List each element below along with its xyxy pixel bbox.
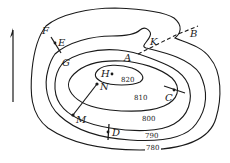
point-h-dot [111,73,114,76]
point-m-dot [71,113,74,116]
point-label-d: D [111,127,120,138]
point-label-c: C [165,92,173,103]
elevation-label-780: 780 [146,144,159,152]
point-label-a: A [123,52,131,63]
segment-a-b-dashed [138,26,198,54]
elevation-label-800: 800 [142,115,155,123]
point-d-dot [107,131,110,134]
point-c-dot [173,89,176,92]
point-label-k: K [149,36,158,47]
elevation-label-810: 810 [134,94,147,102]
segment-m-n [73,84,97,115]
elevation-label-820: 820 [121,76,134,84]
elevation-label-790: 790 [145,132,158,140]
contour-810 [68,61,177,111]
point-label-g: G [62,57,70,68]
topographic-map: 820 810 800 790 780 F E G H N M D C A K … [0,0,230,163]
point-label-f: F [41,25,50,36]
point-n-dot [95,82,98,85]
point-label-b: B [189,28,197,39]
point-label-e: E [57,37,66,48]
point-e-dot [54,42,57,45]
point-label-n: N [99,81,110,92]
point-label-m: M [75,114,87,125]
north-arrow-icon [10,28,13,102]
point-label-h: H [100,68,110,79]
